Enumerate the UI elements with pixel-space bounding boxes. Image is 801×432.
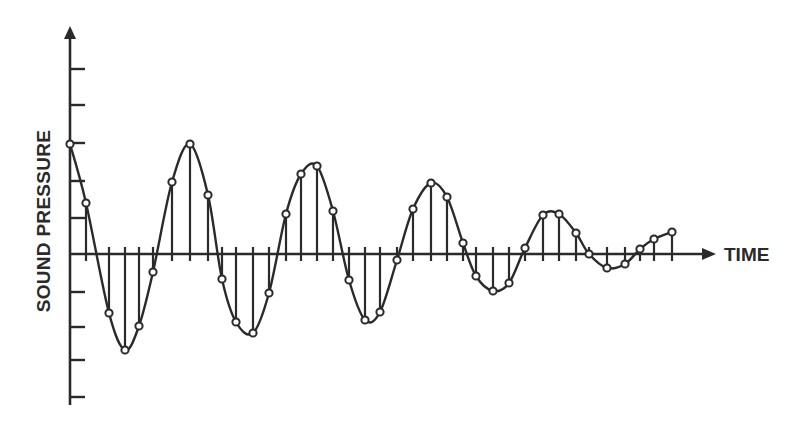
sample-point xyxy=(149,268,156,275)
sample-point xyxy=(636,245,643,252)
axes xyxy=(64,26,716,405)
sample-point xyxy=(472,272,479,279)
sample-point xyxy=(186,140,193,147)
sample-point xyxy=(621,260,628,267)
y-axis-arrow-icon xyxy=(64,26,76,39)
sample-point xyxy=(555,210,562,217)
sample-point xyxy=(650,235,657,242)
sample-point xyxy=(521,244,528,251)
sample-point xyxy=(105,309,112,316)
sample-point xyxy=(218,275,225,282)
x-axis-label: TIME xyxy=(724,244,769,266)
sample-point xyxy=(329,207,336,214)
sample-point xyxy=(168,178,175,185)
y-axis-label: SOUND PRESSURE xyxy=(33,130,55,313)
sample-point xyxy=(82,199,89,206)
sample-point xyxy=(443,193,450,200)
sample-point xyxy=(376,308,383,315)
damped-waveform-chart xyxy=(0,0,801,432)
sample-point xyxy=(572,229,579,236)
sample-point xyxy=(121,346,128,353)
sample-point xyxy=(313,162,320,169)
sample-point xyxy=(361,316,368,323)
x-axis-arrow-icon xyxy=(702,248,716,260)
sample-point xyxy=(282,210,289,217)
sample-point xyxy=(66,140,73,147)
sample-point xyxy=(393,256,400,263)
sample-point xyxy=(409,205,416,212)
sample-point xyxy=(505,279,512,286)
sample-point xyxy=(345,276,352,283)
sample-point xyxy=(204,191,211,198)
sample-point xyxy=(135,322,142,329)
sample-point xyxy=(459,239,466,246)
sample-point xyxy=(668,228,675,235)
sample-point xyxy=(427,179,434,186)
sample-point xyxy=(489,287,496,294)
sample-point xyxy=(249,329,256,336)
sample-point xyxy=(539,211,546,218)
sample-point xyxy=(232,318,239,325)
sample-point xyxy=(585,250,592,257)
sample-point xyxy=(265,289,272,296)
waveform-curve xyxy=(70,144,672,350)
sample-point xyxy=(297,170,304,177)
sample-point xyxy=(603,264,610,271)
